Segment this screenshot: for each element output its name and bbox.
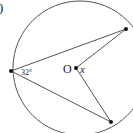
angle-label: 32° (21, 68, 32, 77)
circle (13, 1, 133, 133)
point-bottom-right (109, 120, 113, 124)
unknown-angle-label: x (79, 63, 85, 75)
center-point (74, 66, 78, 70)
point-top-right (124, 27, 128, 31)
part-label: ) (0, 0, 3, 15)
point-left (9, 69, 13, 73)
chord-left-to-bottom (11, 71, 111, 122)
center-label: O (63, 62, 72, 76)
circle-theorem-diagram: ) 32° O x (0, 0, 133, 133)
radius-to-bottom (76, 68, 111, 122)
